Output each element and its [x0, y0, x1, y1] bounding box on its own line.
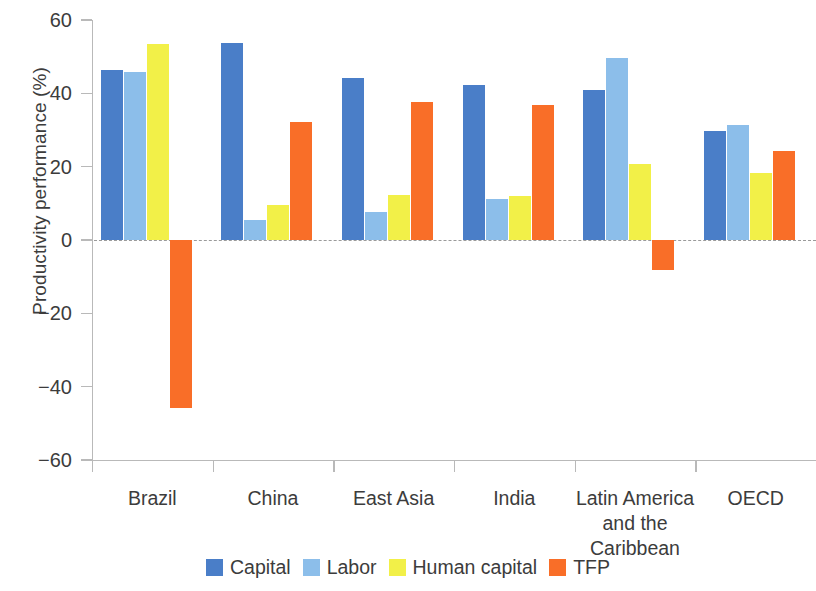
bar-human-capital[interactable]: [388, 195, 410, 240]
square-swatch-icon: [389, 559, 406, 576]
legend-item[interactable]: Capital: [206, 556, 291, 579]
bar-capital[interactable]: [101, 70, 123, 240]
category-label-line: East Asia: [333, 486, 454, 511]
bar-labor[interactable]: [606, 58, 628, 240]
y-axis-tick-label: −40: [38, 375, 81, 398]
bar-labor[interactable]: [244, 220, 266, 240]
bar-labor[interactable]: [486, 199, 508, 240]
chart-legend: CapitalLaborHuman capitalTFP: [0, 556, 816, 579]
bar-human-capital[interactable]: [750, 173, 772, 240]
square-swatch-icon: [549, 559, 566, 576]
legend-label: Labor: [327, 556, 377, 579]
x-axis-category-label: China: [213, 486, 334, 511]
square-swatch-icon: [206, 559, 223, 576]
category-label-line: India: [454, 486, 575, 511]
square-swatch-icon: [303, 559, 320, 576]
category-label-line: and the: [575, 511, 696, 536]
bar-tfp[interactable]: [411, 102, 433, 240]
y-axis-tick: −20: [81, 313, 92, 314]
bar-capital[interactable]: [221, 43, 243, 240]
bar-human-capital[interactable]: [509, 196, 531, 240]
chart-canvas: Productivity performance (%) 6040200−20−…: [0, 0, 816, 591]
y-axis-tick: 40: [81, 93, 92, 94]
bar-tfp[interactable]: [532, 105, 554, 240]
bar-capital[interactable]: [463, 85, 485, 240]
y-axis-tick-label: −60: [38, 448, 81, 471]
bar-group: [454, 12, 575, 472]
bar-capital[interactable]: [704, 131, 726, 240]
y-axis-tick: 0: [81, 239, 92, 240]
y-axis-tick-label: 40: [50, 82, 81, 105]
y-axis-tick-label: −20: [38, 302, 81, 325]
bar-capital[interactable]: [342, 78, 364, 240]
bar-labor[interactable]: [365, 212, 387, 240]
bar-group: [695, 12, 816, 472]
y-axis-tick-label: 0: [61, 228, 81, 251]
legend-item[interactable]: Human capital: [389, 556, 538, 579]
x-axis-category-label: Latin Americaand theCaribbean: [575, 486, 696, 561]
bar-capital[interactable]: [583, 90, 605, 240]
bar-labor[interactable]: [727, 125, 749, 240]
legend-item[interactable]: Labor: [303, 556, 377, 579]
bar-group: [213, 12, 334, 472]
bar-group: [575, 12, 696, 472]
bar-tfp[interactable]: [773, 151, 795, 240]
x-axis-category-label: Brazil: [92, 486, 213, 511]
legend-label: TFP: [573, 556, 610, 579]
category-label-line: Latin America: [575, 486, 696, 511]
x-axis-category-label: East Asia: [333, 486, 454, 511]
bar-human-capital[interactable]: [147, 44, 169, 240]
bar-tfp[interactable]: [652, 240, 674, 270]
x-axis-category-label: India: [454, 486, 575, 511]
y-axis-tick: −40: [81, 386, 92, 387]
bar-human-capital[interactable]: [267, 205, 289, 240]
y-axis-tick-label: 60: [50, 8, 81, 31]
category-label-line: OECD: [695, 486, 816, 511]
legend-item[interactable]: TFP: [549, 556, 610, 579]
bar-tfp[interactable]: [290, 122, 312, 240]
plot-area: 6040200−20−40−60 BrazilChinaEast AsiaInd…: [92, 12, 816, 472]
category-label-line: China: [213, 486, 334, 511]
bar-human-capital[interactable]: [629, 164, 651, 240]
category-label-line: Brazil: [92, 486, 213, 511]
y-axis-tick-label: 20: [50, 155, 81, 178]
bar-labor[interactable]: [124, 72, 146, 240]
x-axis-category-label: OECD: [695, 486, 816, 511]
legend-label: Human capital: [413, 556, 538, 579]
y-axis-tick: 60: [81, 19, 92, 20]
bar-tfp[interactable]: [170, 240, 192, 408]
y-axis-tick: 20: [81, 166, 92, 167]
bar-group: [333, 12, 454, 472]
legend-label: Capital: [230, 556, 291, 579]
y-axis-tick: −60: [81, 459, 92, 460]
bar-group: [92, 12, 213, 472]
